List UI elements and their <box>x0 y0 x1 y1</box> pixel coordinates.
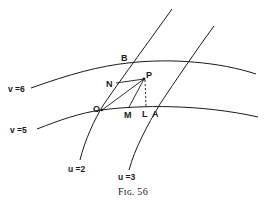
label-M: M <box>124 110 132 120</box>
label-B: B <box>121 53 128 63</box>
curve-v-6 <box>31 61 256 88</box>
label-A: A <box>152 109 159 119</box>
label-u-2: u =2 <box>68 164 86 174</box>
point-P-dot <box>143 78 146 81</box>
curvilinear-coordinates-diagram: B N P O M L A v =6 v =5 u =2 u =3 Fɪɢ. 5… <box>0 0 265 203</box>
label-u-3: u =3 <box>118 172 136 182</box>
curve-u-2 <box>80 9 172 160</box>
label-O: O <box>93 104 100 114</box>
label-P: P <box>146 70 152 80</box>
figure-caption: Fɪɢ. 56 <box>118 186 148 197</box>
curve-u-3 <box>129 26 214 170</box>
label-v-5: v =5 <box>10 125 27 135</box>
label-N: N <box>106 79 113 89</box>
point-O-dot <box>101 109 103 111</box>
label-v-6: v =6 <box>8 84 25 94</box>
segment-PL-dashed <box>145 80 146 106</box>
segment-MP <box>129 79 144 107</box>
label-L: L <box>142 109 148 119</box>
